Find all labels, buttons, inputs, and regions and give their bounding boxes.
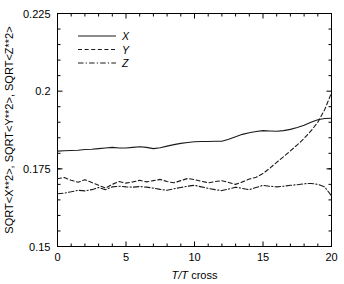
legend-label-x: X [121, 30, 130, 42]
y-tick-label: 0.15 [29, 241, 50, 253]
x-axis-title: T/T cross [172, 269, 218, 281]
x-axis-title-plain: cross [188, 269, 218, 281]
axes [58, 14, 332, 247]
x-tick-label: 5 [123, 251, 129, 263]
y-axis-title: SQRT<X**2>, SQRT<Y**2>, SQRT<Z**2> [3, 26, 15, 233]
chart-figure: XYZ 051015200.150.1750.20.225T/T crossSQ… [0, 0, 344, 284]
y-tick-label: 0.225 [23, 8, 51, 20]
legend-label-z: Z [121, 57, 129, 69]
x-axis-title-italic: T/T [172, 269, 190, 281]
axis-labels: 051015200.150.1750.20.225T/T crossSQRT<X… [3, 8, 338, 281]
series-line-y [58, 93, 332, 188]
line-chart: XYZ 051015200.150.1750.20.225T/T crossSQ… [0, 0, 344, 284]
data-series [58, 93, 332, 196]
series-line-x [58, 118, 332, 151]
y-tick-label: 0.175 [23, 163, 51, 175]
plot-frame [58, 14, 332, 247]
y-tick-label: 0.2 [35, 85, 50, 97]
x-tick-label: 20 [325, 251, 337, 263]
x-tick-label: 10 [188, 251, 200, 263]
legend-label-y: Y [122, 44, 130, 56]
chart-legend: XYZ [78, 30, 130, 69]
x-tick-label: 15 [257, 251, 269, 263]
x-tick-label: 0 [54, 251, 60, 263]
